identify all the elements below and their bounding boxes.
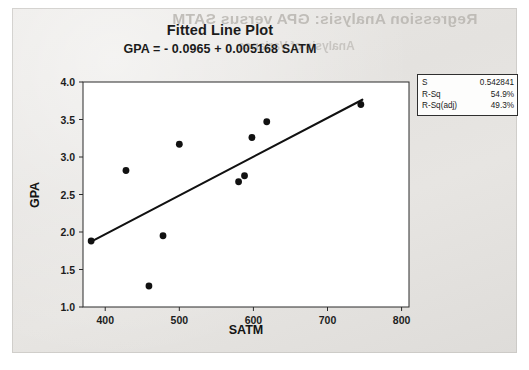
scanned-page: Regression Analysis: GPA versus SATM Ana…	[0, 0, 529, 370]
y-tick-label: 3.5	[60, 114, 75, 126]
statistics-value: 0.542841	[480, 77, 514, 89]
data-point	[241, 172, 248, 179]
y-tick-label: 2.0	[60, 226, 75, 238]
statistics-value: 49.3%	[491, 100, 514, 112]
statistics-label: R-Sq(adj)	[422, 100, 463, 112]
x-axis-title: SATM	[229, 323, 264, 337]
statistics-row: R-Sq54.9%	[422, 89, 514, 101]
fitted-line-plot: Fitted Line Plot GPA = - 0.0965 + 0.0051…	[10, 8, 495, 338]
y-tick-label: 2.5	[60, 189, 75, 201]
data-point	[263, 118, 270, 125]
x-tick-label: 700	[319, 314, 337, 326]
data-point	[88, 238, 95, 245]
y-tick-label: 3.0	[60, 151, 75, 163]
statistics-row: S0.542841	[422, 77, 514, 89]
data-point	[249, 134, 256, 141]
statistics-value: 54.9%	[491, 89, 514, 101]
plot-canvas: 400500600700800 1.01.52.02.53.03.54.0 SA…	[10, 8, 495, 338]
data-point	[123, 167, 130, 174]
data-point	[160, 232, 167, 239]
plot-frame	[83, 82, 409, 307]
statistics-row: R-Sq(adj)49.3%	[422, 100, 514, 112]
data-point	[235, 178, 242, 185]
y-tick-label: 1.5	[60, 264, 75, 276]
statistics-label: S	[422, 77, 433, 89]
x-tick-label: 500	[171, 314, 189, 326]
data-point	[146, 283, 153, 290]
statistics-box: S0.542841R-Sq54.9%R-Sq(adj)49.3%	[417, 74, 518, 116]
statistics-label: R-Sq	[422, 89, 447, 101]
y-axis-ticks: 1.01.52.02.53.03.54.0	[60, 76, 83, 313]
y-tick-label: 1.0	[60, 301, 75, 313]
y-axis-title: GPA	[28, 182, 42, 208]
data-point	[357, 101, 364, 108]
y-tick-label: 4.0	[60, 76, 75, 88]
x-tick-label: 400	[96, 314, 114, 326]
x-tick-label: 800	[393, 314, 411, 326]
data-point	[176, 141, 183, 148]
